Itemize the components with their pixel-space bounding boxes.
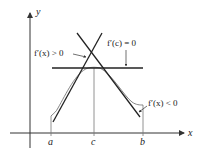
annotation-critical: f′(c) = 0: [107, 38, 137, 48]
tick-label-a: a: [48, 136, 53, 147]
tick-label-c: c: [91, 136, 96, 147]
x-axis-label: x: [187, 127, 193, 138]
y-axis-label: y: [35, 6, 41, 17]
tick-label-b: b: [140, 136, 145, 147]
pointer-increasing: [73, 54, 86, 57]
function-curve: [51, 67, 143, 116]
annotation-increasing: f′(x) > 0: [34, 48, 64, 58]
derivative-sign-diagram: x y a c b f′(x) > 0 f′(c) = 0 f′(x) < 0: [0, 0, 199, 156]
annotation-decreasing: f′(x) < 0: [148, 98, 178, 108]
increasing-tangent-line: [53, 33, 102, 122]
